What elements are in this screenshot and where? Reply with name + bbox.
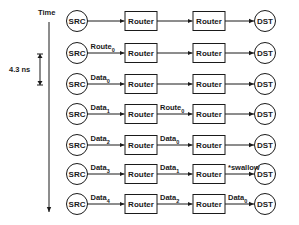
edge-label-2: Data1 xyxy=(160,163,179,174)
router-label: Router xyxy=(196,170,222,179)
edge-label-subscript: 1 xyxy=(176,168,179,174)
dst-label: DST xyxy=(257,80,273,89)
edge-label-1: Data1 xyxy=(91,103,110,114)
edge-label-subscript: 1 xyxy=(107,108,110,114)
router-label: Router xyxy=(128,110,154,119)
edge-label-subscript: 0 xyxy=(112,47,115,53)
router-label: Router xyxy=(196,200,222,209)
src-label: SRC xyxy=(69,110,86,119)
edge-label-1: Data2 xyxy=(91,134,110,145)
src-label: SRC xyxy=(69,200,86,209)
src-label: SRC xyxy=(69,49,86,58)
timestep-row: SRCRouterRouterDST xyxy=(67,11,276,32)
dst-label: DST xyxy=(257,17,273,26)
dst-label: DST xyxy=(257,141,273,150)
edge-label-subscript: 0 xyxy=(181,108,184,114)
edge-label-3: Data0 xyxy=(228,193,247,204)
dst-label: DST xyxy=(257,200,273,209)
src-label: SRC xyxy=(69,141,86,150)
edge-label-1: Route0 xyxy=(91,42,115,53)
edge-label-subscript: 2 xyxy=(176,198,179,204)
router-label: Router xyxy=(196,141,222,150)
interval-label: 4.3 ns xyxy=(9,65,30,74)
timestep-row: SRCRouterRouterDSTData4Data2Data0 xyxy=(67,193,276,215)
edge-label-subscript: 0 xyxy=(107,78,110,84)
src-label: SRC xyxy=(69,80,86,89)
timestep-row: SRCRouterRouterDSTData1Route0 xyxy=(67,103,276,125)
dst-label: DST xyxy=(257,49,273,58)
timestep-row: SRCRouterRouterDSTData3Data1*swallow xyxy=(67,163,276,185)
timestep-row: SRCRouterRouterDSTData2Data0 xyxy=(67,134,276,156)
time-axis-label: Time xyxy=(38,8,55,17)
router-label: Router xyxy=(128,141,154,150)
router-label: Router xyxy=(128,200,154,209)
edge-label-subscript: 2 xyxy=(107,139,110,145)
router-label: Router xyxy=(128,80,154,89)
dst-label: DST xyxy=(257,110,273,119)
edge-label-2: Data0 xyxy=(160,134,179,145)
edge-label-1: Data0 xyxy=(91,73,110,84)
edge-label-3: *swallow xyxy=(228,163,260,172)
router-label: Router xyxy=(196,80,222,89)
router-label: Router xyxy=(196,49,222,58)
edge-label-subscript: 4 xyxy=(107,198,111,204)
edge-label-subscript: 0 xyxy=(176,139,179,145)
edge-label-1: Data4 xyxy=(91,193,111,204)
src-label: SRC xyxy=(69,17,86,26)
edge-label-subscript: 3 xyxy=(107,168,110,174)
edge-label-2: Data2 xyxy=(160,193,179,204)
interval-bracket xyxy=(37,54,43,85)
timestep-row: SRCRouterRouterDSTData0 xyxy=(67,73,276,95)
router-label: Router xyxy=(128,49,154,58)
src-label: SRC xyxy=(69,170,86,179)
edge-label-2: Route0 xyxy=(160,103,184,114)
timestep-row: SRCRouterRouterDSTRoute0 xyxy=(67,42,276,64)
edge-label-subscript: 0 xyxy=(244,198,247,204)
router-label: Router xyxy=(128,170,154,179)
router-label: Router xyxy=(196,110,222,119)
router-label: Router xyxy=(196,17,222,26)
pipeline-timing-diagram: Time 4.3 ns SRCRouterRouterDSTSRCRouterR… xyxy=(0,0,299,225)
edge-label-1: Data3 xyxy=(91,163,110,174)
router-label: Router xyxy=(128,17,154,26)
